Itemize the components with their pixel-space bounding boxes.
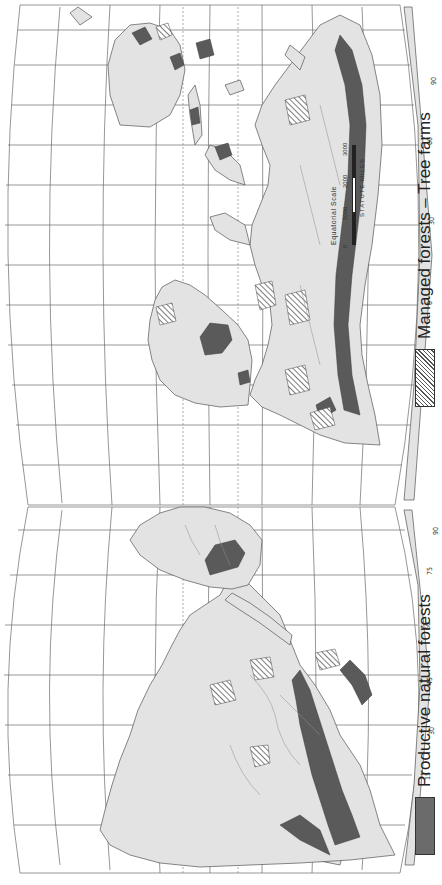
legend-label-productive: Productive natural forests (415, 594, 435, 787)
legend-productive-forests: Productive natural forests (412, 594, 438, 855)
svg-text:90: 90 (432, 527, 440, 535)
scale-bar (352, 145, 356, 245)
equatorial-scale: Equatorial Scale 0 1000 2000 3000 STATUT… (330, 135, 380, 245)
na-managed-west (315, 649, 340, 670)
svg-text:90: 90 (430, 77, 438, 85)
philippines (225, 80, 244, 95)
africa-west-forest (238, 370, 250, 385)
legend-label-managed: Managed forests – Tree farms (415, 112, 435, 339)
middle-east-managed (255, 281, 276, 310)
rotated-map-stage: 90 75 60 45 30 15 0 90 60 30 0 Equatoria… (0, 0, 442, 885)
productive-forest-swatch (415, 797, 435, 855)
india (210, 213, 250, 245)
western-hemisphere (4, 507, 430, 873)
new-zealand (70, 7, 92, 25)
south-america (130, 507, 262, 589)
na-pacific-forest (340, 660, 372, 705)
svg-text:75: 75 (426, 567, 434, 575)
world-forest-map: 90 75 60 45 30 15 0 90 60 30 0 (0, 0, 442, 885)
legend-managed-forests: Managed forests – Tree farms (412, 112, 438, 407)
indonesia-forest (190, 107, 200, 125)
managed-forest-swatch (415, 349, 435, 407)
eastern-hemisphere (5, 5, 432, 505)
africa (148, 280, 252, 407)
scale-units: STATUTE MILES (359, 158, 365, 217)
new-guinea-forest (196, 39, 214, 59)
scale-title: Equatorial Scale (330, 186, 337, 245)
